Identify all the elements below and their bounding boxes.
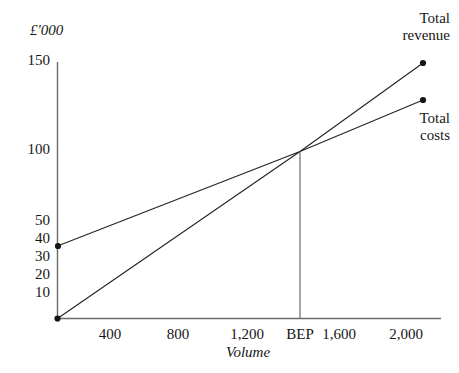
y-tick-150: 150 <box>8 52 50 69</box>
marker-fixed-cost-start <box>55 243 61 249</box>
total-costs-label-line2: costs <box>340 127 450 144</box>
total-revenue-label-line1: Total <box>340 10 450 27</box>
total-revenue-label-line2: revenue <box>340 27 450 44</box>
total-costs-label: Total costs <box>340 110 450 145</box>
total-revenue-label: Total revenue <box>340 10 450 45</box>
x-tick-1600: 1,600 <box>310 326 368 343</box>
x-axis-title: Volume <box>213 344 283 361</box>
y-tick-20: 20 <box>8 266 50 283</box>
x-tick-800: 800 <box>153 326 203 343</box>
marker-origin <box>54 315 60 321</box>
x-tick-1200: 1,200 <box>218 326 276 343</box>
y-tick-10: 10 <box>8 284 50 301</box>
total-revenue-line <box>58 63 424 319</box>
total-costs-label-line1: Total <box>340 110 450 127</box>
marker-total-costs-end <box>420 97 426 103</box>
y-axis-title: £'000 <box>30 22 63 39</box>
x-tick-400: 400 <box>85 326 135 343</box>
marker-total-revenue-end <box>420 60 426 66</box>
break-even-chart: £'000 150 100 50 40 30 20 10 400 800 1,2… <box>0 0 459 373</box>
y-tick-30: 30 <box>8 248 50 265</box>
y-tick-50: 50 <box>8 212 50 229</box>
chart-plot-area <box>0 0 459 373</box>
y-tick-40: 40 <box>8 230 50 247</box>
x-tick-2000: 2,000 <box>377 326 435 343</box>
y-tick-100: 100 <box>8 141 50 158</box>
